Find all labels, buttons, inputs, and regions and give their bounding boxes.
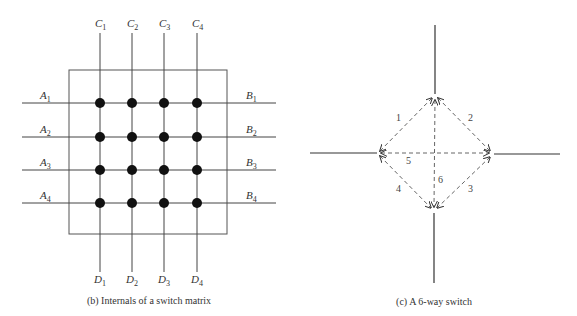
label-b1: B1: [246, 89, 257, 104]
switch-wires: [310, 25, 560, 283]
label-a4: A4: [39, 189, 51, 204]
connection-label-4: 4: [396, 183, 401, 194]
six-way-switch-diagram: 1 2 3 4 5 6 (c) A 6-way switch: [310, 25, 560, 308]
row-wires: [22, 103, 276, 203]
label-d4: D4: [190, 273, 203, 288]
connection-label-1: 1: [396, 112, 401, 123]
connection-6: [434, 100, 435, 207]
label-d1: D1: [93, 273, 106, 288]
label-c3: C3: [159, 17, 170, 32]
label-b4: B4: [246, 189, 257, 204]
matrix-caption: (b) Internals of a switch matrix: [87, 295, 211, 307]
label-d2: D2: [125, 273, 138, 288]
connection-label-2: 2: [468, 112, 473, 123]
connection-1: [380, 98, 432, 151]
connection-label-5: 5: [406, 155, 411, 166]
switch-caption: (c) A 6-way switch: [396, 296, 472, 308]
junction-dots: [95, 98, 202, 208]
label-c4: C4: [192, 17, 203, 32]
label-c1: C1: [95, 17, 106, 32]
matrix-box: [69, 70, 227, 234]
label-a3: A3: [39, 156, 51, 171]
connection-3: [437, 157, 490, 208]
label-b3: B3: [246, 156, 257, 171]
switch-matrix-diagram: C1 C2 C3 C4 D1 D2 D3 D4 A1 A2 A3 A4 B1 B…: [22, 17, 276, 307]
label-a1: A1: [39, 89, 51, 104]
column-wires: [100, 33, 197, 272]
label-d3: D3: [157, 273, 170, 288]
figure: C1 C2 C3 C4 D1 D2 D3 D4 A1 A2 A3 A4 B1 B…: [0, 0, 577, 316]
connection-2: [438, 98, 490, 151]
label-a2: A2: [39, 123, 51, 138]
label-c2: C2: [127, 17, 138, 32]
label-b2: B2: [246, 123, 257, 138]
connection-label-6: 6: [438, 174, 443, 185]
connection-label-3: 3: [468, 183, 473, 194]
